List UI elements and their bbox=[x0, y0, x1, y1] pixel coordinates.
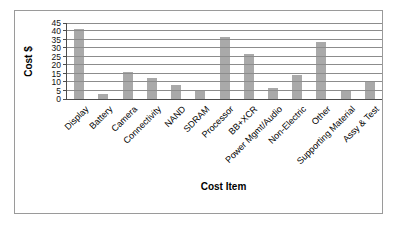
gridline bbox=[67, 73, 382, 74]
chart-frame: Cost $ 051015202530354045 DisplayBattery… bbox=[14, 10, 383, 214]
y-tick-mark bbox=[63, 99, 67, 100]
y-tick-mark bbox=[63, 39, 67, 40]
bar bbox=[365, 82, 375, 99]
y-axis-title-box: Cost $ bbox=[15, 23, 41, 99]
x-category-label: Display bbox=[62, 104, 90, 132]
gridline bbox=[67, 23, 382, 24]
y-tick-mark bbox=[63, 30, 67, 31]
y-tick-label: 10 bbox=[41, 78, 61, 86]
y-tick-label: 20 bbox=[41, 61, 61, 69]
bar-slot bbox=[188, 23, 212, 99]
bar-slot bbox=[261, 23, 285, 99]
bar-slot bbox=[164, 23, 188, 99]
bar-series bbox=[67, 23, 382, 99]
y-tick-mark bbox=[63, 56, 67, 57]
bar bbox=[123, 72, 133, 99]
gridline bbox=[67, 64, 382, 65]
y-axis-title: Cost $ bbox=[23, 46, 34, 77]
x-axis-labels: DisplayBatteryCameraConnectivityNANDSDRA… bbox=[66, 101, 381, 179]
y-tick-label: 15 bbox=[41, 70, 61, 78]
y-tick-mark bbox=[63, 23, 67, 24]
y-tick-label: 0 bbox=[41, 95, 61, 103]
y-axis-ticks: 051015202530354045 bbox=[41, 23, 61, 99]
x-axis-title: Cost Item bbox=[66, 181, 381, 192]
bar-slot bbox=[358, 23, 382, 99]
bar-slot bbox=[237, 23, 261, 99]
bar bbox=[171, 85, 181, 99]
bar-slot bbox=[140, 23, 164, 99]
gridline bbox=[67, 56, 382, 57]
y-tick-mark bbox=[63, 81, 67, 82]
y-tick-mark bbox=[63, 64, 67, 65]
bar bbox=[244, 54, 254, 99]
plot-area bbox=[66, 23, 382, 100]
y-tick-mark bbox=[63, 73, 67, 74]
gridline bbox=[67, 81, 382, 82]
bar-slot bbox=[285, 23, 309, 99]
gridline bbox=[67, 90, 382, 91]
y-tick-label: 30 bbox=[41, 44, 61, 52]
y-tick-label: 35 bbox=[41, 36, 61, 44]
y-tick-label: 25 bbox=[41, 53, 61, 61]
y-tick-label: 45 bbox=[41, 19, 61, 27]
bar-slot bbox=[212, 23, 236, 99]
y-tick-mark bbox=[63, 90, 67, 91]
y-tick-label: 5 bbox=[41, 87, 61, 95]
bar bbox=[292, 75, 302, 99]
bar-slot bbox=[309, 23, 333, 99]
bar-slot bbox=[334, 23, 358, 99]
y-tick-label: 40 bbox=[41, 27, 61, 35]
bar-slot bbox=[91, 23, 115, 99]
bar-slot bbox=[115, 23, 139, 99]
bar bbox=[98, 94, 108, 99]
bar bbox=[195, 91, 205, 99]
gridline bbox=[67, 30, 382, 31]
gridline bbox=[67, 39, 382, 40]
bar bbox=[341, 90, 351, 99]
bar-slot bbox=[67, 23, 91, 99]
y-tick-mark bbox=[63, 47, 67, 48]
gridline bbox=[67, 47, 382, 48]
